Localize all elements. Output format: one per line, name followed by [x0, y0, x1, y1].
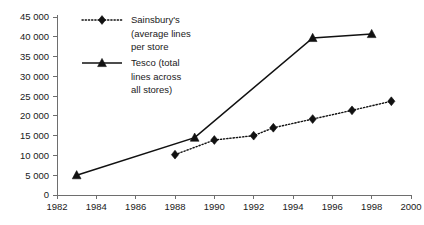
- y-axis-tick-label: 35 000: [20, 51, 49, 62]
- legend-label: Sainsbury's: [131, 14, 180, 25]
- legend-label: all stores): [131, 84, 172, 95]
- x-axis: 1982198419861988199019921994199619982000: [46, 195, 421, 212]
- legend-label: lines across: [131, 71, 181, 82]
- data-point-marker: [270, 123, 277, 132]
- series-tesco: [72, 29, 376, 178]
- data-point-marker: [250, 131, 257, 140]
- x-axis-tick-label: 2000: [400, 201, 421, 212]
- legend-entry[interactable]: Tesco (totallines acrossall stores): [82, 57, 181, 95]
- x-axis-tick-label: 1988: [164, 201, 185, 212]
- chart-container: 05 00010 00015 00020 00025 00030 00035 0…: [0, 0, 424, 225]
- y-axis-tick-label: 15 000: [20, 130, 49, 141]
- x-axis-tick-label: 1996: [322, 201, 343, 212]
- data-series-group: [72, 29, 395, 178]
- legend-label: Tesco (total: [131, 57, 180, 68]
- x-axis-tick-label: 1984: [86, 201, 107, 212]
- series-line: [77, 34, 372, 175]
- legend-label: per store: [131, 41, 169, 52]
- y-axis-tick-label: 5 000: [25, 170, 49, 181]
- y-axis-tick-label: 0: [44, 189, 49, 200]
- data-point-marker: [171, 150, 178, 159]
- legend-label: (average lines: [131, 28, 191, 39]
- chart-legend: Sainsbury's(average linesper storeTesco …: [82, 14, 191, 95]
- y-axis-tick-label: 20 000: [20, 110, 49, 121]
- legend-entry[interactable]: Sainsbury's(average linesper store: [82, 14, 191, 52]
- data-point-marker: [309, 115, 316, 124]
- y-axis: 05 00010 00015 00020 00025 00030 00035 0…: [20, 11, 57, 200]
- data-point-marker: [211, 136, 218, 145]
- x-axis-tick-label: 1990: [204, 201, 225, 212]
- y-axis-tick-label: 25 000: [20, 91, 49, 102]
- x-axis-tick-label: 1992: [243, 201, 264, 212]
- series-line: [175, 101, 391, 154]
- data-point-marker: [388, 97, 395, 106]
- y-axis-tick-label: 40 000: [20, 31, 49, 42]
- y-axis-tick-label: 45 000: [20, 11, 49, 22]
- y-axis-tick-label: 30 000: [20, 71, 49, 82]
- legend-diamond-icon: [98, 16, 105, 25]
- x-axis-tick-label: 1994: [282, 201, 303, 212]
- x-axis-tick-label: 1986: [125, 201, 146, 212]
- line-chart: 05 00010 00015 00020 00025 00030 00035 0…: [0, 0, 424, 225]
- data-point-marker: [348, 106, 355, 115]
- y-axis-tick-label: 10 000: [20, 150, 49, 161]
- x-axis-tick-label: 1998: [361, 201, 382, 212]
- x-axis-tick-label: 1982: [46, 201, 67, 212]
